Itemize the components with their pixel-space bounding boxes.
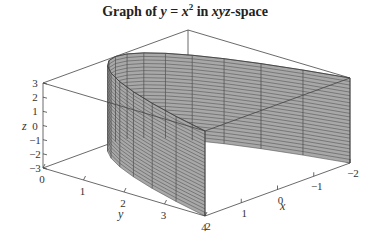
svg-text:0: 0 bbox=[32, 120, 38, 132]
z-axis-ticks: 3210−1−2−3 bbox=[29, 77, 47, 174]
x-axis-label: x bbox=[279, 199, 286, 213]
svg-text:−1: −1 bbox=[311, 180, 323, 192]
svg-text:2: 2 bbox=[205, 220, 211, 232]
x-axis-ticks: 210−1−2 bbox=[205, 159, 359, 232]
svg-text:3: 3 bbox=[32, 77, 38, 89]
y-axis-label: y bbox=[117, 207, 124, 221]
svg-text:3: 3 bbox=[161, 209, 167, 221]
z-axis-label: z bbox=[21, 119, 27, 133]
svg-text:1: 1 bbox=[80, 185, 86, 197]
svg-text:−1: −1 bbox=[29, 134, 41, 146]
svg-text:1: 1 bbox=[242, 207, 248, 219]
svg-text:2: 2 bbox=[32, 91, 38, 103]
plot-3d: 3210−1−2−3 01234 210−1−2 z y x bbox=[0, 0, 370, 243]
svg-text:−2: −2 bbox=[347, 167, 359, 179]
svg-text:1: 1 bbox=[32, 105, 38, 117]
svg-text:−2: −2 bbox=[29, 148, 41, 160]
svg-text:0: 0 bbox=[39, 173, 45, 185]
